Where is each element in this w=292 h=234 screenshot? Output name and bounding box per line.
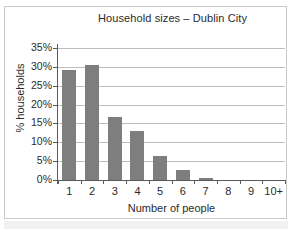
y-axis-tick-label: 0%: [8, 173, 52, 185]
x-axis-tick-mark: [285, 180, 286, 184]
y-axis-tick-mark: [53, 142, 58, 143]
x-axis-tick-mark: [149, 180, 150, 184]
y-axis-tick-label: 5%: [8, 154, 52, 166]
chart-title: Household sizes – Dublin City: [60, 12, 285, 24]
bar: [85, 65, 99, 180]
y-axis-line: [57, 44, 58, 184]
x-axis-tick-mark: [81, 180, 82, 184]
y-axis-tick-mark: [53, 48, 58, 49]
plot-area: [58, 48, 285, 180]
x-axis-tick-mark: [240, 180, 241, 184]
gridline: [58, 48, 285, 49]
x-axis-tick-mark: [126, 180, 127, 184]
y-axis-tick-mark: [53, 161, 58, 162]
y-axis-title: % households: [14, 43, 26, 153]
chart-figure: Household sizes – Dublin City 0%5%10%15%…: [0, 0, 292, 234]
x-axis-tick-mark: [194, 180, 195, 184]
bar: [108, 117, 122, 180]
x-axis-tick-label: 10+: [259, 185, 289, 197]
bar: [153, 156, 167, 180]
y-axis-tick-mark: [53, 105, 58, 106]
bar: [176, 170, 190, 180]
y-axis-tick-mark: [53, 123, 58, 124]
x-axis-tick-mark: [172, 180, 173, 184]
x-axis-tick-mark: [217, 180, 218, 184]
y-axis-tick-labels: 0%5%10%15%20%25%30%35%: [6, 0, 52, 234]
x-axis-tick-mark: [58, 180, 59, 184]
x-axis-title: Number of people: [58, 202, 285, 214]
bar: [62, 70, 76, 181]
x-axis-tick-mark: [262, 180, 263, 184]
bar: [130, 131, 144, 180]
x-axis-tick-mark: [103, 180, 104, 184]
y-axis-tick-mark: [53, 67, 58, 68]
y-axis-tick-mark: [53, 86, 58, 87]
